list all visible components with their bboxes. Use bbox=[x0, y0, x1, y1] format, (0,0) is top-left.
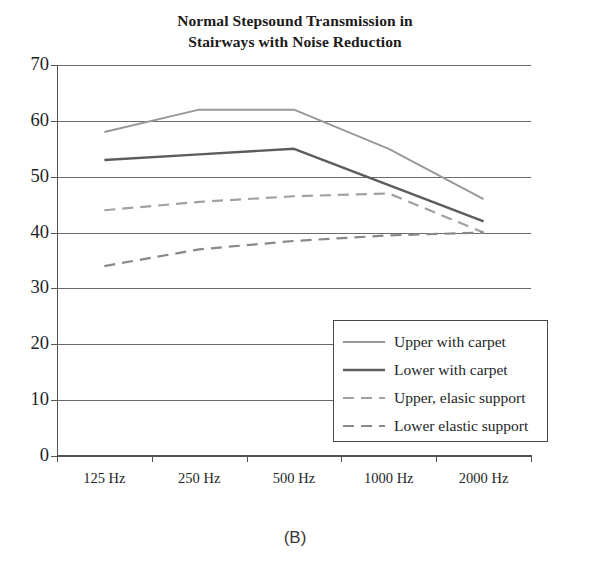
figure-container: Normal Stepsound Transmission in Stairwa… bbox=[0, 0, 590, 580]
x-tick-4 bbox=[436, 455, 437, 462]
x-tick-0 bbox=[57, 455, 58, 462]
x-tick-2 bbox=[247, 455, 248, 462]
legend-label: Upper with carpet bbox=[394, 333, 506, 351]
chart-title: Normal Stepsound Transmission in Stairwa… bbox=[0, 10, 590, 52]
legend-label: Upper, elasic support bbox=[394, 389, 526, 407]
legend-line-swatch-icon bbox=[343, 419, 385, 433]
y-tick-label-40: 40 bbox=[3, 222, 49, 243]
legend-item-3[interactable]: Lower elastic support bbox=[334, 412, 547, 440]
legend-item-0[interactable]: Upper with carpet bbox=[334, 328, 547, 356]
legend-label: Lower with carpet bbox=[394, 361, 508, 379]
y-tick-label-60: 60 bbox=[3, 110, 49, 131]
series-line-3 bbox=[104, 233, 483, 267]
legend-item-1[interactable]: Lower with carpet bbox=[334, 356, 547, 384]
chart-title-line-2: Stairways with Noise Reduction bbox=[0, 31, 590, 52]
series-line-0 bbox=[104, 110, 483, 199]
x-tick-3 bbox=[341, 455, 342, 462]
y-tick-label-10: 10 bbox=[3, 389, 49, 410]
series-line-1 bbox=[104, 149, 483, 222]
figure-caption: (B) bbox=[0, 528, 590, 548]
legend-item-2[interactable]: Upper, elasic support bbox=[334, 384, 547, 412]
y-tick-label-20: 20 bbox=[3, 333, 49, 354]
x-tick-1 bbox=[152, 455, 153, 462]
x-tick-label-2: 500 Hz bbox=[244, 470, 344, 487]
x-tick-label-1: 250 Hz bbox=[149, 470, 249, 487]
chart-title-line-1: Normal Stepsound Transmission in bbox=[0, 10, 590, 31]
legend-label: Lower elastic support bbox=[394, 417, 528, 435]
x-tick-label-0: 125 Hz bbox=[54, 470, 154, 487]
legend-line-swatch-icon bbox=[343, 363, 385, 377]
chart-legend: Upper with carpetLower with carpetUpper,… bbox=[333, 320, 548, 442]
y-tick-label-30: 30 bbox=[3, 277, 49, 298]
y-tick-label-0: 0 bbox=[3, 445, 49, 466]
y-tick-label-70: 70 bbox=[3, 54, 49, 75]
legend-line-swatch-icon bbox=[343, 335, 385, 349]
x-tick-label-4: 2000 Hz bbox=[434, 470, 534, 487]
y-tick-label-50: 50 bbox=[3, 166, 49, 187]
x-tick-5 bbox=[531, 455, 532, 462]
x-tick-label-3: 1000 Hz bbox=[339, 470, 439, 487]
legend-line-swatch-icon bbox=[343, 391, 385, 405]
